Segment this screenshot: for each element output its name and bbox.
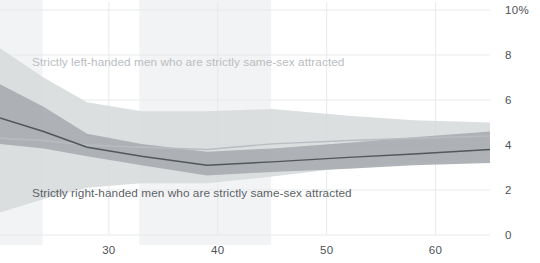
y-tick-label: 6 [505, 94, 512, 106]
x-tick-label: 60 [429, 244, 442, 256]
right-handed-series-label: Strictly right-handed men who are strict… [32, 186, 352, 200]
x-tick-label: 50 [320, 244, 333, 256]
y-tick-label: 2 [505, 184, 512, 196]
y-tick-label: 10% [505, 4, 529, 16]
x-tick-label: 40 [211, 244, 224, 256]
y-tick-label: 0 [505, 229, 512, 241]
y-tick-label: 4 [505, 139, 512, 151]
line-chart: 30405060 10%86420 Strictly left-handed m… [0, 0, 540, 263]
chart-container: 30405060 10%86420 Strictly left-handed m… [0, 0, 540, 263]
y-tick-label: 8 [505, 49, 512, 61]
x-tick-label: 30 [102, 244, 115, 256]
left-handed-series-label: Strictly left-handed men who are strictl… [32, 55, 344, 69]
